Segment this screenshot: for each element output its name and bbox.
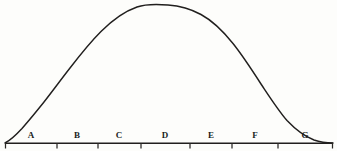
x-axis-band-labels: A B C D E F G: [28, 130, 309, 140]
bell-curve-figure: A B C D E F G: [0, 0, 337, 151]
band-label-d: D: [162, 130, 169, 140]
band-label-e: E: [208, 130, 214, 140]
bell-curve-plot: A B C D E F G: [0, 0, 337, 151]
band-label-f: F: [252, 130, 258, 140]
band-label-a: A: [28, 130, 35, 140]
distribution-curve: [5, 4, 333, 143]
band-label-g: G: [301, 130, 308, 140]
band-label-c: C: [116, 130, 123, 140]
band-label-b: B: [74, 130, 80, 140]
